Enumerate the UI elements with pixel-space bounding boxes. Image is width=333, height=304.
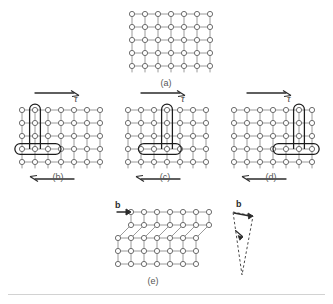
lattice-node (155, 11, 160, 16)
lattice-node (309, 133, 314, 138)
lattice-node (71, 133, 76, 138)
lattice-node (257, 146, 262, 151)
wedge-b-arrowhead (248, 213, 253, 219)
lattice-node (177, 107, 182, 112)
lattice-node (32, 146, 37, 151)
lattice-node (190, 146, 195, 151)
lattice-node (181, 24, 186, 29)
bottom-shear-arrowhead2-b (30, 176, 37, 177)
lattice-node (115, 235, 120, 240)
lattice-node (45, 120, 50, 125)
lattice-node (129, 50, 134, 55)
lattice-node (168, 24, 173, 29)
bottom-shear-arrowhead2-c (136, 176, 143, 177)
lattice-node (164, 159, 169, 164)
lattice-node (257, 107, 262, 112)
lattice-node (154, 222, 159, 227)
lattice-node (193, 235, 198, 240)
lattice-node (141, 222, 146, 227)
lattice-node (45, 133, 50, 138)
lattice-node (190, 120, 195, 125)
lattice-node (164, 146, 169, 151)
lattice-node (45, 159, 50, 164)
tau-label-d: τ (287, 93, 291, 104)
lattice-node (142, 11, 147, 16)
lattice-node (32, 133, 37, 138)
lattice-node (151, 120, 156, 125)
lattice-node (164, 107, 169, 112)
lattice-node (71, 146, 76, 151)
lattice-node (207, 37, 212, 42)
lattice-node (154, 209, 159, 214)
lattice-node (58, 159, 63, 164)
lattice-node (296, 146, 301, 151)
lattice-node (203, 133, 208, 138)
caption-panel-d: (d) (256, 172, 286, 182)
burgers-label-wedge: b (236, 199, 242, 209)
lattice-node (207, 63, 212, 68)
lattice-node (32, 159, 37, 164)
lattice-node (283, 133, 288, 138)
lattice-node (244, 133, 249, 138)
lattice-node (84, 120, 89, 125)
lattice-node (231, 133, 236, 138)
lattice-node (167, 209, 172, 214)
lattice-node (128, 261, 133, 266)
lattice-node (19, 120, 24, 125)
lattice-node (151, 133, 156, 138)
lattice-node (129, 37, 134, 42)
lattice-node (270, 120, 275, 125)
lattice-node (155, 63, 160, 68)
lattice-node (154, 248, 159, 253)
lattice-node (168, 50, 173, 55)
lattice-node (270, 133, 275, 138)
lattice-node (194, 37, 199, 42)
lattice-node (142, 37, 147, 42)
lattice-node (155, 37, 160, 42)
lattice-panel-c (125, 107, 208, 168)
lattice-node (125, 146, 130, 151)
lattice-node (257, 159, 262, 164)
caption-panel-a: (a) (151, 78, 181, 88)
lattice-node (177, 133, 182, 138)
lattice-node (97, 107, 102, 112)
lattice-node (193, 261, 198, 266)
lattice-node (71, 107, 76, 112)
lattice-node (190, 107, 195, 112)
lattice-node (257, 133, 262, 138)
lattice-node (309, 159, 314, 164)
lattice-node (283, 107, 288, 112)
lattice-node (177, 120, 182, 125)
lattice-node (129, 24, 134, 29)
lattice-node (270, 107, 275, 112)
lattice-node (142, 50, 147, 55)
lattice-panel-e (115, 209, 211, 266)
lattice-node (154, 235, 159, 240)
lattice-node (164, 120, 169, 125)
lattice-node (45, 146, 50, 151)
caption-panel-b: (b) (43, 172, 73, 182)
lattice-node (129, 11, 134, 16)
lattice-node (84, 159, 89, 164)
lattice-node (168, 37, 173, 42)
lattice-node (180, 248, 185, 253)
lattice-node (180, 222, 185, 227)
lattice-node (203, 120, 208, 125)
lattice-node (309, 146, 314, 151)
lattice-node (97, 120, 102, 125)
lattice-node (58, 107, 63, 112)
lattice-node (296, 133, 301, 138)
lattice-node (181, 50, 186, 55)
lattice-node (203, 146, 208, 151)
lattice-node (19, 133, 24, 138)
lattice-node (283, 159, 288, 164)
lattice-node (167, 235, 172, 240)
lattice-node (244, 159, 249, 164)
lattice-node (97, 133, 102, 138)
lattice-node (45, 107, 50, 112)
lattice-node (97, 159, 102, 164)
bottom-rule (8, 294, 325, 295)
lattice-node (257, 120, 262, 125)
lattice-node (203, 159, 208, 164)
lattice-node (84, 146, 89, 151)
